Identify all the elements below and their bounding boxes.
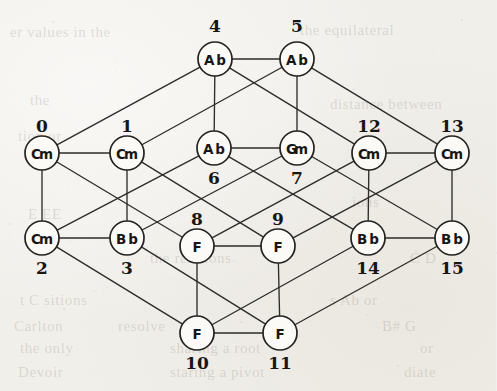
node-index-label: 15 xyxy=(440,258,464,278)
node-layer: Cm0Cm1Cm2Bb3Ab4Ab5Ab6Gm7F8F9F10F11Cm12Cm… xyxy=(25,16,469,373)
node-chord-label: Cm xyxy=(31,231,53,247)
graph-node[interactable]: Gm7 xyxy=(280,131,314,188)
graph-node[interactable]: Ab6 xyxy=(197,131,231,188)
node-chord-label: Cm xyxy=(358,146,380,162)
graph-node[interactable]: F9 xyxy=(261,209,295,263)
node-index-label: 7 xyxy=(291,168,303,188)
graph-edge xyxy=(368,169,369,222)
graph-node[interactable]: Bb3 xyxy=(110,221,144,278)
node-chord-label: F xyxy=(192,239,201,255)
node-index-label: 9 xyxy=(272,209,284,229)
graph-node[interactable]: F8 xyxy=(180,209,214,263)
node-index-label: 3 xyxy=(121,258,133,278)
graph-edge xyxy=(56,246,184,324)
graph-node[interactable]: Bb14 xyxy=(351,221,385,278)
node-index-label: 5 xyxy=(291,16,303,36)
edge-layer xyxy=(42,59,452,333)
graph-node[interactable]: Ab4 xyxy=(198,16,232,76)
graph-node[interactable]: F10 xyxy=(180,316,214,373)
node-index-label: 0 xyxy=(36,116,48,136)
node-index-label: 13 xyxy=(440,116,464,136)
graph-node[interactable]: Cm1 xyxy=(110,116,144,170)
node-chord-label: F xyxy=(275,326,284,342)
graph-edge xyxy=(141,155,283,230)
node-index-label: 1 xyxy=(121,116,133,136)
graph-node[interactable]: Bb15 xyxy=(435,221,469,278)
node-index-label: 10 xyxy=(185,353,209,373)
graph-edge xyxy=(278,262,279,317)
node-chord-label: Cm xyxy=(116,146,138,162)
graph-node[interactable]: F11 xyxy=(263,316,297,373)
node-index-label: 4 xyxy=(209,16,221,36)
node-chord-label: Cm xyxy=(31,146,53,162)
graph-node[interactable]: Cm12 xyxy=(352,116,386,170)
graph-edge xyxy=(214,75,215,132)
graph-node[interactable]: Cm13 xyxy=(435,116,469,170)
graph-node[interactable]: Cm2 xyxy=(25,221,59,278)
node-index-label: 14 xyxy=(356,258,380,278)
node-index-label: 6 xyxy=(208,168,220,188)
node-chord-label: F xyxy=(192,326,201,342)
graph-node[interactable]: Cm0 xyxy=(25,116,59,170)
node-index-label: 11 xyxy=(268,353,292,373)
node-chord-label: Cm xyxy=(441,146,463,162)
node-index-label: 2 xyxy=(36,258,48,278)
node-index-label: 12 xyxy=(357,116,381,136)
graph-node[interactable]: Ab5 xyxy=(280,16,314,76)
node-chord-label: F xyxy=(273,239,282,255)
node-index-label: 8 xyxy=(191,209,203,229)
node-chord-label: Gm xyxy=(286,141,308,157)
